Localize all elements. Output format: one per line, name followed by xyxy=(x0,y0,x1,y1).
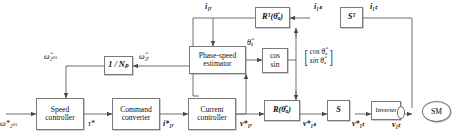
trig-vector-row-sin: sin θ̂ₐ xyxy=(310,56,326,65)
block-s-transpose[interactable]: Sᵀ xyxy=(340,7,363,28)
bracket-left-icon: [ xyxy=(304,49,307,64)
label-speed-estimate-elec: ω̂₂ᵣ xyxy=(139,52,149,61)
label-current-terminal: i₁ₜ xyxy=(370,2,377,11)
terminal-node xyxy=(397,106,405,119)
label-current-reference-rotor: i*₁ᵣ xyxy=(163,119,174,128)
label-voltage-reference-terminal: v*₁ₜ xyxy=(352,119,364,128)
label-angle-estimate: θ̂ₐ xyxy=(247,38,253,47)
block-speed-controller[interactable]: Speed controller xyxy=(36,98,84,130)
block-current-controller[interactable]: Current controller xyxy=(188,98,236,130)
trig-vector: [cos θ̂ₐsin θ̂ₐ] xyxy=(303,48,334,65)
label-current-rotor: i₁ᵣ xyxy=(205,2,212,11)
block-rotation-transpose[interactable]: Rᵀ(θ̂ₐ) xyxy=(255,7,290,28)
label-current-stator: i₁ₛ xyxy=(314,2,322,11)
label-speed-estimate-mech: ω̂₂ₘ xyxy=(44,52,57,61)
block-cos-sin[interactable]: cos sin xyxy=(262,48,288,73)
block-command-converter[interactable]: Command converter xyxy=(112,98,160,130)
block-phase-speed-estimator[interactable]: Phase-speed estimator xyxy=(189,46,246,74)
block-synchronous-machine[interactable]: SM xyxy=(422,101,451,122)
block-rotation[interactable]: R(θ̂ₐ) xyxy=(264,100,300,121)
bracket-right-icon: ] xyxy=(329,49,332,64)
block-pole-pair-divider[interactable]: 1 / Nₚ xyxy=(104,56,133,75)
block-diagram-canvas: Speed controller Command converter Curre… xyxy=(0,0,461,139)
block-s-matrix[interactable]: S xyxy=(327,100,350,121)
label-voltage-reference-stator: v*₁ₛ xyxy=(303,119,316,128)
label-torque-reference: τ* xyxy=(88,119,95,128)
label-voltage-terminal: v₁ₜ xyxy=(392,120,400,129)
label-voltage-reference-rotor: v*₁ᵣ xyxy=(240,119,252,128)
label-speed-reference: ω*₂ₘ xyxy=(0,119,17,128)
